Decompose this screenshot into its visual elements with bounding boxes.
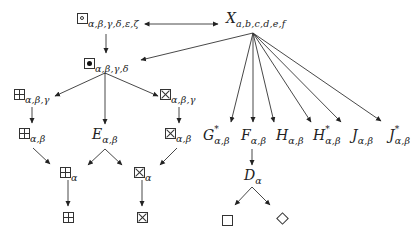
- edge-boxdot-crossabg: [105, 73, 158, 96]
- node-subscript: α,β,γ,δ: [95, 63, 129, 74]
- node-j-star-ab: J*α,β: [389, 128, 410, 142]
- node-subscript: α,β: [288, 135, 304, 146]
- node-subscript: α,β,γ: [171, 94, 196, 105]
- boxed-cross-icon: [137, 212, 148, 223]
- node-subscript: α,β: [358, 135, 374, 146]
- node-main-label: F: [241, 127, 251, 143]
- boxed-circle-icon: [77, 13, 88, 24]
- node-main-label: H: [313, 127, 325, 143]
- node-square: [222, 213, 233, 227]
- node-h-star-ab: H*α,β: [313, 128, 341, 142]
- node-subscript: α,β: [102, 134, 118, 145]
- node-subscript: α,β: [176, 133, 192, 144]
- node-boxed-cross-a: α: [134, 165, 152, 179]
- node-boxed-cross-abg: α,β,γ: [160, 87, 196, 101]
- node-subscript: α: [145, 172, 152, 183]
- edge-x-jab: [253, 33, 341, 122]
- square-icon: [222, 215, 233, 226]
- node-main-label: H: [276, 127, 288, 143]
- node-superscript: *: [395, 125, 400, 134]
- edge-x-gstar: [231, 33, 253, 122]
- node-f-ab: Fα,β: [241, 128, 266, 142]
- node-boxed-plus-ab: α,β: [19, 126, 46, 140]
- node-boxed-cross-ab: α,β: [165, 126, 192, 140]
- node-boxed-circle-abgdez: α,β,γ,δ,ε,ζ: [77, 11, 139, 25]
- node-main-label: D: [244, 167, 255, 183]
- boxed-plus-icon: [19, 128, 30, 139]
- node-subscript: α,β: [325, 135, 341, 146]
- edge-x-hab: [253, 33, 274, 122]
- node-boxed-cross: [137, 210, 148, 224]
- node-main-label: E: [92, 126, 102, 142]
- node-subscript: α,β: [214, 135, 230, 146]
- node-h-ab: Hα,β: [276, 128, 304, 142]
- node-j-ab: Jα,β: [352, 128, 373, 142]
- node-subscript: a,b,c,d,e,f: [236, 18, 286, 29]
- node-boxed-plus: [63, 210, 74, 224]
- node-subscript: α,β,γ,δ,ε,ζ: [88, 18, 139, 29]
- node-subscript: α: [71, 172, 78, 183]
- node-main-label: G: [203, 127, 214, 143]
- boxed-cross-icon: [165, 128, 176, 139]
- edge-da-diamond: [252, 187, 270, 205]
- boxed-plus-icon: [60, 167, 71, 178]
- boxed-dot-icon: [84, 58, 95, 69]
- boxed-cross-icon: [160, 89, 171, 100]
- node-subscript: α,β,γ: [25, 94, 50, 105]
- edges-layer: [0, 0, 420, 238]
- edge-da-square: [235, 187, 252, 205]
- node-superscript: *: [214, 125, 219, 134]
- node-main-label: X: [226, 10, 236, 26]
- edge-plusab-plusa: [33, 148, 50, 164]
- boxed-cross-icon: [134, 167, 145, 178]
- node-diamond: [278, 210, 287, 224]
- node-subscript: α,β: [395, 135, 411, 146]
- edge-boxdot-plusabg: [55, 73, 105, 96]
- edge-eab-crossa: [105, 149, 122, 165]
- node-subscript: α: [255, 175, 262, 186]
- node-x-abcdef: Xa,b,c,d,e,f: [226, 11, 286, 25]
- node-boxed-plus-a: α: [60, 165, 78, 179]
- edge-x-jstar: [253, 33, 381, 121]
- edge-x-hstar: [253, 33, 311, 122]
- edge-eab-plusa: [88, 149, 105, 165]
- node-subscript: α,β: [251, 135, 267, 146]
- diamond-icon: [276, 212, 289, 225]
- node-d-a: Dα: [244, 168, 262, 182]
- boxed-plus-icon: [63, 212, 74, 223]
- edge-x-boxdot: [141, 33, 253, 60]
- node-subscript: α,β: [30, 133, 46, 144]
- node-main-label: J: [352, 127, 358, 143]
- node-e-ab: Eα,β: [92, 127, 118, 141]
- boxed-plus-icon: [14, 89, 25, 100]
- node-g-star-ab: G*α,β: [203, 128, 230, 142]
- edge-crossab-crossa: [160, 148, 177, 165]
- node-boxed-plus-abg: α,β,γ: [14, 87, 50, 101]
- node-superscript: *: [325, 125, 330, 134]
- node-boxed-dot-abgd: α,β,γ,δ: [84, 56, 129, 70]
